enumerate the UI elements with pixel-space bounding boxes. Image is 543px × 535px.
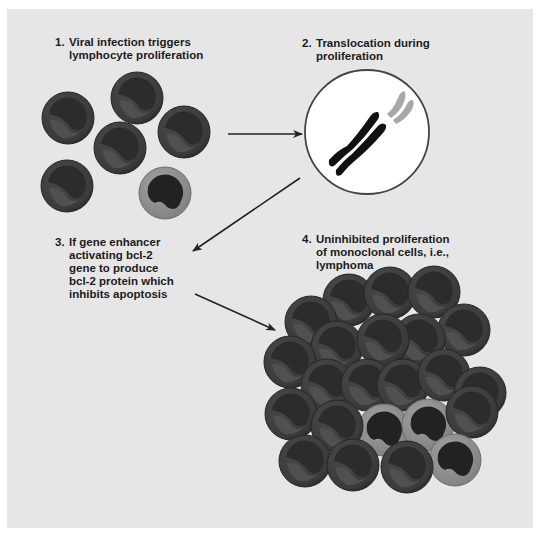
lymphocyte-cell (42, 92, 94, 144)
lymphocyte-cell-light (139, 167, 191, 219)
step-2-label: 2.Translocation during proliferation (302, 37, 430, 63)
lymphoma-cell (438, 304, 490, 356)
step-4-label: 4.Uninhibited proliferation of monoclona… (302, 233, 450, 272)
step-text-line: proliferation (302, 50, 430, 63)
step-3-label: 3.If gene enhancer activating bcl-2 gene… (55, 236, 174, 301)
lymphoma-cell (381, 441, 433, 493)
arrow-step2-to-step3 (193, 178, 300, 251)
lymphoma-cell (446, 386, 498, 438)
lymphoma-cell (279, 435, 331, 487)
step-number: 4. (302, 233, 316, 246)
step-number: 2. (302, 37, 316, 50)
lymphoma-cell (357, 314, 409, 366)
lymphoma-cell (327, 439, 379, 491)
lymphocyte-cell (94, 122, 146, 174)
lymphocyte-cell (158, 106, 210, 158)
arrow-step3-to-step4 (195, 294, 275, 330)
polyclonal-cell-group (41, 72, 210, 219)
step-text-line: bcl-2 protein which (55, 275, 174, 288)
lymphocyte-cell (41, 160, 93, 212)
lymphocyte-cell (111, 72, 163, 124)
nucleus-with-chromosome (305, 70, 429, 194)
step-text-line: lymphoma (302, 259, 450, 272)
lymphoma-cell (265, 388, 317, 440)
step-text-line: activating bcl-2 (55, 249, 174, 262)
monoclonal-cell-cluster (264, 266, 506, 493)
step-number: 3. (55, 236, 69, 249)
step-text-line: Translocation during (316, 37, 430, 49)
step-text-line: If gene enhancer (69, 236, 160, 248)
step-text-line: gene to produce (55, 262, 174, 275)
step-number: 1. (55, 36, 69, 49)
step-text-line: Uninhibited proliferation (316, 233, 450, 245)
step-text-line: inhibits apoptosis (55, 288, 174, 301)
step-text-line: Viral infection triggers (69, 36, 191, 48)
step-1-label: 1.Viral infection triggers lymphocyte pr… (55, 36, 203, 62)
step-text-line: lymphocyte proliferation (55, 49, 203, 62)
step-text-line: of monoclonal cells, i.e., (302, 246, 450, 259)
lymphoma-cell-light (429, 434, 481, 486)
